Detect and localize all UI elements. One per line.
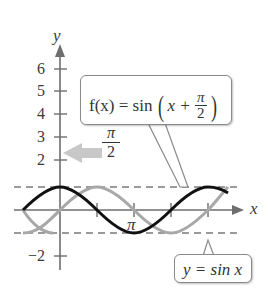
callout-f-fraction: π 2 [195,90,207,121]
y-tick-label-2: 2 [37,152,45,168]
y-axis-label: y [53,27,61,44]
y-axis-arrow-icon [55,44,65,57]
y-tick-label-4: 4 [37,106,45,122]
shift-arrow-icon [63,143,102,163]
callout-f-lhs: f(x) = sin [89,96,152,116]
callout-f-frac-num: π [197,90,205,105]
shift-numerator: π [102,125,120,141]
callout-f-pointer [148,123,188,187]
x-tick-label-pi: π [127,216,136,233]
y-tick-label-3: 3 [37,129,45,145]
callout-sin-text: y = sin x [183,260,242,280]
x-axis-arrow-icon [232,205,244,215]
shift-denominator: 2 [102,144,120,160]
y-tick-label-6: 6 [37,61,45,77]
x-axis-label: x [250,200,258,217]
callout-f-x-plus: x + [167,96,190,116]
callout-f-frac-den: 2 [197,106,205,121]
callout-f-open-paren: ( [158,91,164,121]
callout-f-close-paren: ) [211,91,217,121]
shift-label: π 2 [102,125,120,160]
y-tick-label-5: 5 [37,83,45,99]
callout-f-equation: f(x) = sin ( x + π 2 ) [80,75,232,125]
y-tick-label-neg2: −2 [28,248,45,264]
callout-sin-equation: y = sin x [174,254,252,283]
